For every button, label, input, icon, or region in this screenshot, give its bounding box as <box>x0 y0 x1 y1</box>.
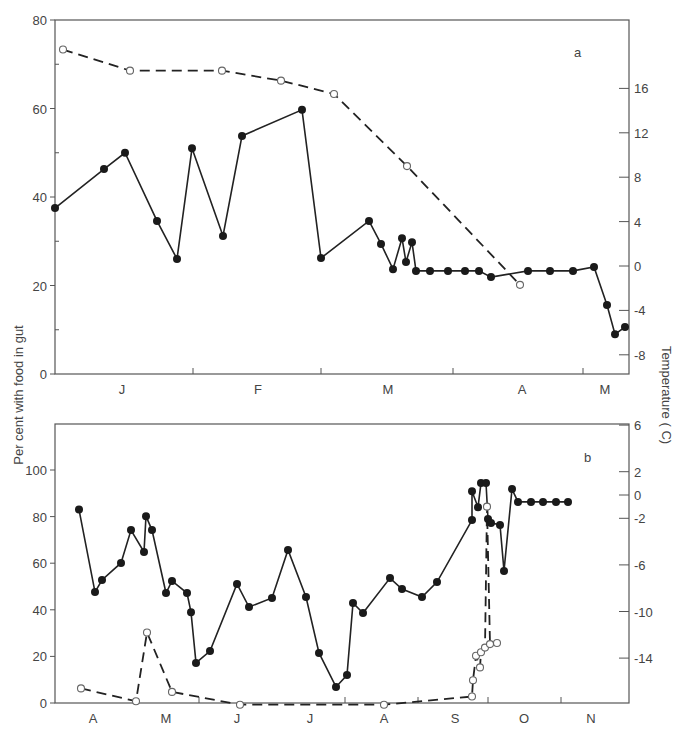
x-tick-label: A <box>89 711 98 726</box>
temperature-point <box>278 77 285 84</box>
temperature-point <box>133 698 140 705</box>
panel-a-frame <box>55 20 629 374</box>
food-in-gut-point <box>539 498 547 506</box>
x-tick-label: J <box>307 711 314 726</box>
panel-b-series <box>75 479 572 708</box>
food-in-gut-point <box>359 609 367 617</box>
panel-a: 020406080 -8-40481216 JFMAM a <box>33 13 649 397</box>
food-in-gut-point <box>461 267 469 275</box>
food-in-gut-point <box>474 503 482 511</box>
food-in-gut-point <box>343 671 351 679</box>
food-in-gut-point <box>402 258 410 266</box>
x-tick-label: M <box>383 382 394 397</box>
temperature-point <box>517 281 524 288</box>
food-in-gut-point <box>500 567 508 575</box>
y-tick-label: 80 <box>33 510 47 525</box>
food-in-gut-point <box>482 479 490 487</box>
x-tick-label: A <box>518 382 527 397</box>
food-in-gut-point <box>168 577 176 585</box>
food-in-gut-point <box>98 576 106 584</box>
temperature-point <box>331 90 338 97</box>
temperature-point <box>60 46 67 53</box>
food-in-gut-line <box>79 483 568 687</box>
food-in-gut-point <box>349 599 357 607</box>
food-in-gut-point <box>377 240 385 248</box>
figure-canvas: 020406080 -8-40481216 JFMAM a 0204060801… <box>0 0 682 731</box>
y-tick-label: 20 <box>33 279 47 294</box>
y-tick-label: 80 <box>33 13 47 28</box>
panel-a-label: a <box>574 45 582 60</box>
left-axis-title: Per cent with food in gut <box>11 325 26 465</box>
food-in-gut-point <box>284 546 292 554</box>
food-in-gut-point <box>468 487 476 495</box>
y-tick-label: 100 <box>25 463 47 478</box>
food-in-gut-line <box>55 110 625 334</box>
y-tick-label: 60 <box>33 102 47 117</box>
x-tick-label: F <box>254 382 262 397</box>
temperature-line <box>81 507 497 705</box>
food-in-gut-point <box>188 144 196 152</box>
y-right-tick-label: -2 <box>634 511 646 526</box>
temperature-point <box>487 641 494 648</box>
food-in-gut-point <box>140 548 148 556</box>
food-in-gut-point <box>552 498 560 506</box>
x-tick-label: O <box>519 711 529 726</box>
panel-b-x-axis: AMJJASON <box>89 697 596 726</box>
temperature-point <box>494 639 501 646</box>
temperature-point <box>477 664 484 671</box>
panel-b-frame <box>55 424 629 703</box>
food-in-gut-point <box>524 267 532 275</box>
food-in-gut-point <box>75 506 83 514</box>
food-in-gut-point <box>153 217 161 225</box>
food-in-gut-point <box>487 519 495 527</box>
food-in-gut-point <box>412 267 420 275</box>
temperature-point <box>381 701 388 708</box>
food-in-gut-point <box>100 165 108 173</box>
x-tick-label: J <box>119 382 126 397</box>
food-in-gut-point <box>487 273 495 281</box>
y-tick-label: 0 <box>40 696 47 711</box>
temperature-point <box>219 67 226 74</box>
temperature-point <box>237 701 244 708</box>
food-in-gut-point <box>389 265 397 273</box>
x-tick-label: A <box>380 711 389 726</box>
right-axis-title: Temperature ( C) <box>659 346 674 444</box>
food-in-gut-point <box>408 238 416 246</box>
food-in-gut-point <box>386 574 394 582</box>
temperature-point <box>404 163 411 170</box>
food-in-gut-point <box>603 301 611 309</box>
y-tick-label: 60 <box>33 556 47 571</box>
food-in-gut-point <box>569 267 577 275</box>
food-in-gut-point <box>268 594 276 602</box>
y-right-tick-label: -6 <box>634 558 646 573</box>
food-in-gut-point <box>398 585 406 593</box>
panel-b-right-axis: -14-10-6-2026 <box>619 418 653 666</box>
food-in-gut-point <box>611 330 619 338</box>
food-in-gut-point <box>173 255 181 263</box>
y-right-tick-label: 0 <box>634 259 641 274</box>
food-in-gut-point <box>332 683 340 691</box>
food-in-gut-point <box>302 593 310 601</box>
temperature-point <box>78 685 85 692</box>
x-tick-label: J <box>234 711 241 726</box>
food-in-gut-point <box>398 234 406 242</box>
panel-b-left-axis: 020406080100 <box>25 463 55 711</box>
x-tick-label: N <box>586 711 595 726</box>
food-in-gut-point <box>91 588 99 596</box>
food-in-gut-point <box>527 498 535 506</box>
food-in-gut-point <box>426 267 434 275</box>
food-in-gut-point <box>433 578 441 586</box>
food-in-gut-point <box>475 267 483 275</box>
temperature-point <box>484 503 491 510</box>
panel-b: 020406080100 -14-10-6-2026 AMJJASON b <box>25 418 653 726</box>
temperature-point <box>144 629 151 636</box>
food-in-gut-point <box>183 589 191 597</box>
y-right-tick-label: 8 <box>634 170 641 185</box>
food-in-gut-point <box>298 106 306 114</box>
temperature-point <box>169 688 176 695</box>
food-in-gut-point <box>564 498 572 506</box>
panel-a-x-axis: JFMAM <box>119 368 611 397</box>
y-right-tick-label: 2 <box>634 465 641 480</box>
food-in-gut-point <box>187 608 195 616</box>
food-in-gut-point <box>315 649 323 657</box>
